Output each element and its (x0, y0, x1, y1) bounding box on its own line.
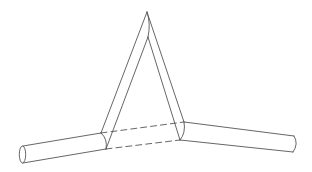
left-arm-outer-edge (101, 12, 147, 133)
right-end-curve (293, 136, 296, 152)
hidden-upper-dashed-edge (101, 122, 184, 133)
right-joint-curve (180, 122, 185, 140)
right-rod-segment (180, 122, 296, 152)
left-arm (101, 12, 148, 149)
left-rod-segment (19, 133, 106, 163)
hidden-dashed-segment (101, 122, 184, 149)
left-joint-curve (101, 133, 106, 149)
left-segment-top-edge (23, 133, 101, 146)
right-segment-top-edge (184, 122, 294, 136)
left-end-ellipse (19, 146, 25, 163)
left-arm-inner-edge (106, 37, 148, 149)
hidden-lower-dashed-edge (106, 140, 180, 149)
bent-rod-diagram (0, 0, 312, 172)
diagram-svg (0, 0, 312, 172)
right-segment-bottom-edge (180, 140, 293, 152)
right-arm-outer-edge (147, 12, 184, 122)
left-segment-bottom-edge (23, 149, 106, 163)
right-arm (147, 12, 185, 140)
